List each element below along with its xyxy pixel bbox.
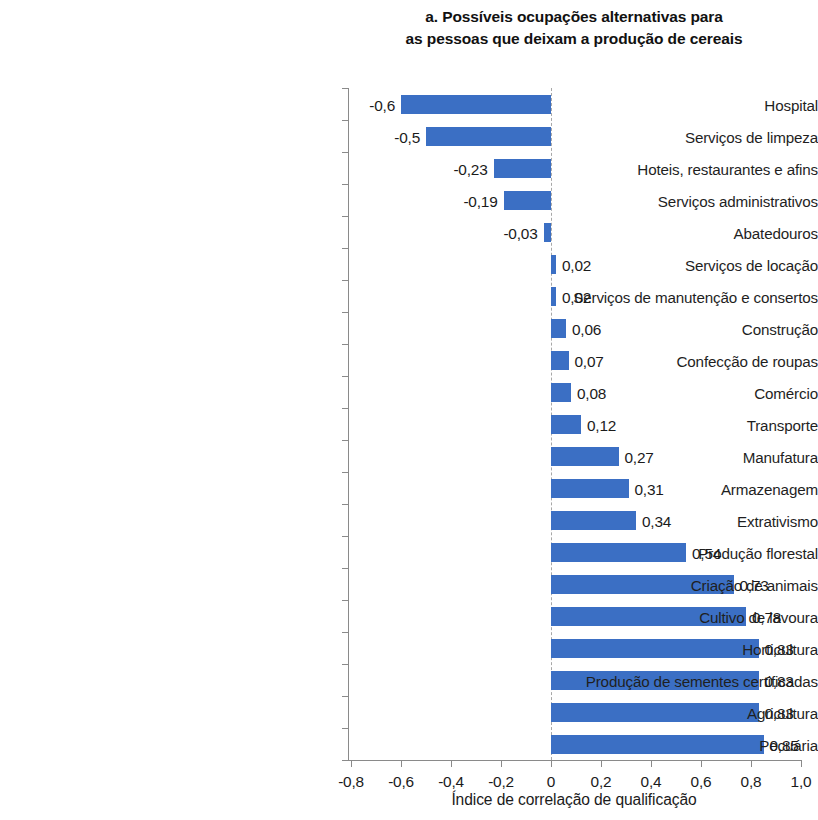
y-axis-tick <box>342 568 348 569</box>
x-axis-tick-label: -0,8 <box>338 774 364 789</box>
chart-title-line-2: as pessoas que deixam a produção de cere… <box>330 28 818 50</box>
bar-value-label: 0,78 <box>752 610 781 625</box>
category-label: Confecção de roupas <box>474 354 818 369</box>
x-axis-tick <box>801 760 802 767</box>
x-axis-tick <box>451 760 452 767</box>
bar-value-label: 0,02 <box>562 290 591 305</box>
x-axis-tick <box>651 760 652 767</box>
y-axis-tick <box>342 440 348 441</box>
bar-value-label: 0,83 <box>765 642 794 657</box>
x-axis-tick-label: 0,8 <box>741 774 762 789</box>
x-axis-tick <box>351 760 352 767</box>
bar-value-label: -0,03 <box>0 226 538 241</box>
x-axis-tick-label: -0,2 <box>488 774 514 789</box>
y-axis-tick <box>342 760 348 761</box>
bar-value-label: 0,06 <box>572 322 601 337</box>
y-axis-tick <box>342 344 348 345</box>
y-axis-tick <box>342 600 348 601</box>
y-axis-tick <box>342 728 348 729</box>
category-label: Serviços de limpeza <box>474 130 818 145</box>
bar-value-label: 0,07 <box>575 354 604 369</box>
x-axis-line <box>348 760 801 761</box>
bar-value-label: -0,23 <box>0 162 488 177</box>
y-axis-tick <box>342 120 348 121</box>
category-label: Hospital <box>474 98 818 113</box>
bar-value-label: 0,31 <box>635 482 664 497</box>
bar-value-label: 0,34 <box>642 514 671 529</box>
x-axis-tick-label: 0,6 <box>691 774 712 789</box>
chart-title: a. Possíveis ocupações alternativas para… <box>330 6 818 51</box>
category-label: Construção <box>474 322 818 337</box>
x-axis-tick <box>501 760 502 767</box>
x-axis-tick-label: 1,0 <box>791 774 812 789</box>
y-axis-tick <box>342 248 348 249</box>
y-axis-tick <box>342 280 348 281</box>
y-axis-tick <box>342 472 348 473</box>
x-axis-tick-label: 0,4 <box>641 774 662 789</box>
bar-value-label: -0,19 <box>0 194 498 209</box>
bar-value-label: 0,08 <box>577 386 606 401</box>
category-label: Hoteis, restaurantes e afins <box>474 162 818 177</box>
x-axis-tick <box>401 760 402 767</box>
y-axis-tick <box>342 312 348 313</box>
bar-value-label: 0,54 <box>692 546 721 561</box>
y-axis-tick <box>342 408 348 409</box>
bar-value-label: 0,27 <box>625 450 654 465</box>
x-axis-tick-label: 0 <box>547 774 555 789</box>
x-axis-tick <box>751 760 752 767</box>
y-axis-tick <box>342 664 348 665</box>
bar-value-label: -0,6 <box>0 98 395 113</box>
chart-title-line-1: a. Possíveis ocupações alternativas para <box>330 6 818 28</box>
y-axis-tick <box>342 696 348 697</box>
y-axis-tick <box>342 184 348 185</box>
bar-value-label: 0,85 <box>770 738 799 753</box>
x-axis-tick-label: -0,4 <box>438 774 464 789</box>
x-axis-tick-label: -0,6 <box>388 774 414 789</box>
bar-value-label: 0,12 <box>587 418 616 433</box>
y-axis-line <box>348 88 349 760</box>
category-label: Pecuária <box>474 738 818 753</box>
bar-value-label: 0,83 <box>765 706 794 721</box>
bar-value-label: 0,83 <box>765 674 794 689</box>
y-axis-tick <box>342 152 348 153</box>
y-axis-tick <box>342 632 348 633</box>
x-axis-tick <box>551 760 552 767</box>
category-label: Serviços administrativos <box>474 194 818 209</box>
x-axis-tick <box>601 760 602 767</box>
y-axis-tick <box>342 88 348 89</box>
x-axis-title: Índice de correlação de qualificação <box>330 791 818 809</box>
bar-value-label: -0,5 <box>0 130 420 145</box>
y-axis-tick <box>342 504 348 505</box>
x-axis-tick <box>701 760 702 767</box>
category-label: Serviços de manutenção e consertos <box>474 290 818 305</box>
category-label: Serviços de locação <box>474 258 818 273</box>
bar-value-label: 0,02 <box>562 258 591 273</box>
x-axis-tick-label: 0,2 <box>591 774 612 789</box>
category-label: Comércio <box>474 386 818 401</box>
bar-value-label: 0,73 <box>740 578 769 593</box>
y-axis-tick <box>342 216 348 217</box>
category-label: Produção florestal <box>474 546 818 561</box>
y-axis-tick <box>342 536 348 537</box>
y-axis-tick <box>342 376 348 377</box>
category-label: Transporte <box>474 418 818 433</box>
